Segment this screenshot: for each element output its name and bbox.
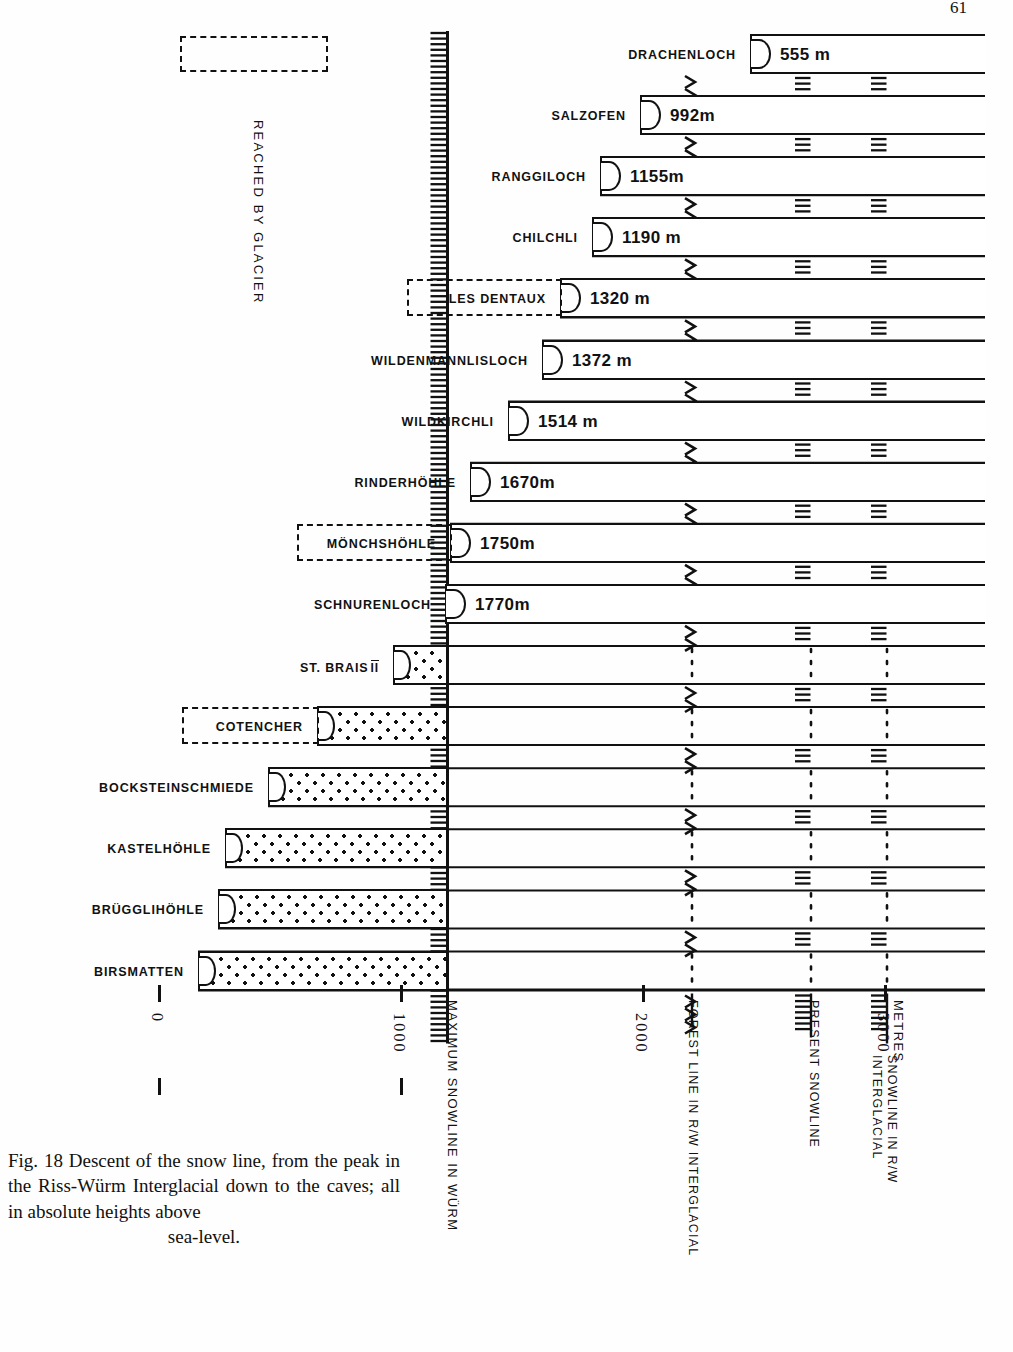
axis-tick bbox=[642, 985, 645, 1002]
cave-name-label: CHILCHLI bbox=[512, 232, 578, 245]
cave-name-label: BOCKSTEINSCHMIEDE bbox=[99, 782, 254, 795]
cave-name-label: DRACHENLOCH bbox=[628, 49, 736, 62]
cave-name-highlight-box bbox=[297, 524, 452, 561]
cave-altitude-value: 1670m bbox=[500, 474, 555, 491]
axis-tick-label: 3000 bbox=[874, 1013, 892, 1054]
cave-name-highlight-box bbox=[407, 279, 562, 316]
cave-altitude-value: 555 m bbox=[780, 46, 830, 63]
cave-altitude-value: 1372 m bbox=[572, 352, 632, 369]
reached-by-glacier-swatch bbox=[180, 36, 328, 72]
axis-tick-label: 2000 bbox=[632, 1013, 650, 1054]
axis-tick bbox=[400, 985, 403, 1002]
cave-name-label: BIRSMATTEN bbox=[94, 966, 184, 979]
cave-altitude-value: 1155m bbox=[630, 168, 684, 185]
figure-caption: Fig. 18 Descent of the snow line, from t… bbox=[8, 1148, 400, 1249]
cave-bar bbox=[317, 706, 448, 746]
cave-name-label: BRÜGGLIHÖHLE bbox=[92, 904, 204, 917]
ref-line-label-rw-interglacial-1: SNOWLINE IN R/W bbox=[885, 1055, 899, 1183]
caption-line-1: Fig. 18 Descent of the snow line, from t… bbox=[8, 1150, 338, 1171]
axis-tick-label: 1000 bbox=[390, 1013, 408, 1054]
cave-name-label: WILDENMANNLISLOCH bbox=[371, 355, 528, 368]
reached-by-glacier-label: REACHED BY GLACIER bbox=[251, 120, 266, 305]
cave-name-label: SALZOFEN bbox=[551, 110, 626, 123]
cave-altitude-value: 1514 m bbox=[538, 413, 598, 430]
cave-bar bbox=[198, 951, 448, 991]
cave-bar bbox=[225, 828, 448, 868]
cave-name-label: KASTELHÖHLE bbox=[107, 843, 211, 856]
ref-line-label-rw-interglacial-2: INTERGLACIAL bbox=[870, 1055, 884, 1160]
caption-line-4: sea-level. bbox=[8, 1224, 400, 1249]
ref-line-label-max-snowline-wurm: MAXIMUM SNOWLINE IN WÜRM bbox=[444, 1000, 459, 1231]
cave-altitude-value: 1320 m bbox=[590, 290, 650, 307]
figure-snowline-descent: 61 REACHED BY GLACIER 555 mDRACHENLOCH99… bbox=[0, 0, 1013, 1352]
cave-altitude-value: 1190 m bbox=[622, 229, 681, 246]
cave-name-label: RINDERHÖHLE bbox=[354, 477, 456, 490]
axis-tick bbox=[400, 1078, 403, 1095]
cave-name-label: RANGGILOCH bbox=[492, 171, 586, 184]
cave-bar bbox=[218, 889, 448, 929]
axis-tick bbox=[158, 1078, 161, 1095]
axis-tick bbox=[158, 985, 161, 1002]
cave-name-label: ST. BRAISII bbox=[300, 660, 379, 675]
cave-altitude-value: 992m bbox=[670, 107, 715, 124]
axis-unit-label: METRES bbox=[890, 1000, 905, 1063]
cave-bar bbox=[268, 767, 448, 807]
axis-tick-label: 0 bbox=[148, 1013, 166, 1023]
cave-name-highlight-box bbox=[182, 707, 319, 744]
ref-line-label-present-snowline: PRESENT SNOWLINE bbox=[807, 1000, 821, 1148]
cave-altitude-value: 1770m bbox=[475, 596, 530, 613]
cave-name-label: SCHNURENLOCH bbox=[314, 599, 431, 612]
ref-line-label-forest-line: FOREST LINE IN R/W INTERGLACIAL bbox=[686, 1000, 700, 1256]
page-number: 61 bbox=[950, 0, 967, 18]
cave-name-label: WILDKIRCHLI bbox=[401, 416, 494, 429]
cave-altitude-value: 1750m bbox=[480, 535, 535, 552]
axis-tick bbox=[884, 985, 887, 1002]
